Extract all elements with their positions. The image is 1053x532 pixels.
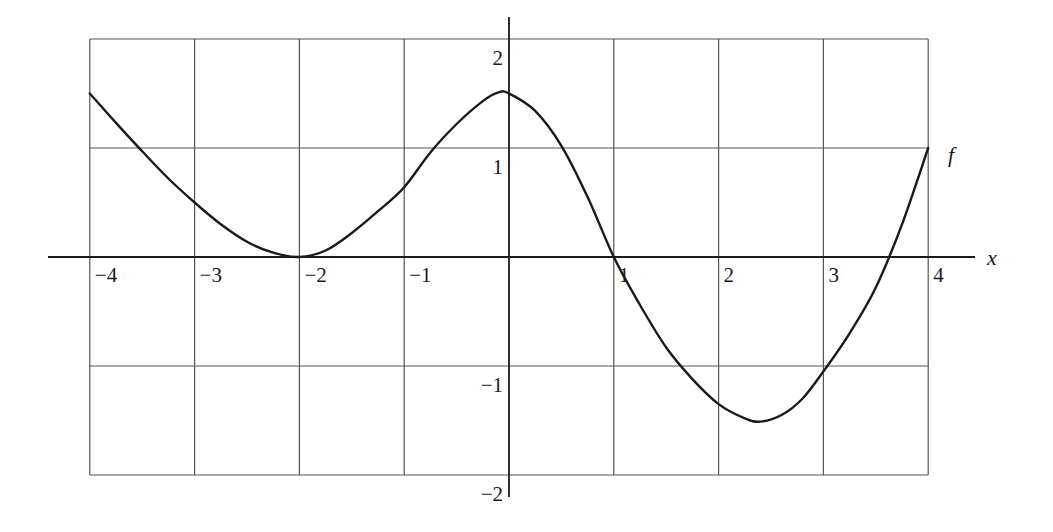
y-tick-label: −2 — [481, 482, 503, 506]
axes — [48, 17, 975, 497]
x-tick-label: 4 — [933, 263, 944, 287]
tick-labels: −4−3−2−1123421−1−2 — [95, 46, 944, 506]
x-tick-label: −4 — [95, 263, 118, 287]
curve-label-f: f — [948, 142, 957, 167]
y-tick-label: 1 — [493, 155, 504, 179]
function-plot: −4−3−2−1123421−1−2 x f — [0, 0, 1053, 532]
x-tick-label: −2 — [304, 263, 326, 287]
x-tick-label: −1 — [409, 263, 431, 287]
x-tick-label: 3 — [828, 263, 839, 287]
x-tick-label: −3 — [200, 263, 222, 287]
y-tick-label: 2 — [493, 46, 504, 70]
x-tick-label: 2 — [724, 263, 735, 287]
y-tick-label: −1 — [481, 373, 503, 397]
x-axis-label: x — [986, 245, 997, 270]
